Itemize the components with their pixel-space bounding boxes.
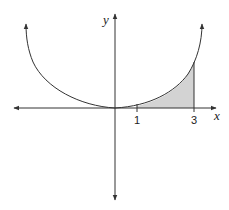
- tick-label-1: 1: [134, 114, 140, 126]
- tick-label-3: 3: [191, 114, 197, 126]
- curve-left-branch: [26, 24, 115, 108]
- graph-figure: 1 3 x y: [0, 0, 229, 210]
- x-axis-label: x: [213, 108, 220, 123]
- shaded-area: [137, 62, 194, 108]
- y-axis-label: y: [101, 12, 109, 27]
